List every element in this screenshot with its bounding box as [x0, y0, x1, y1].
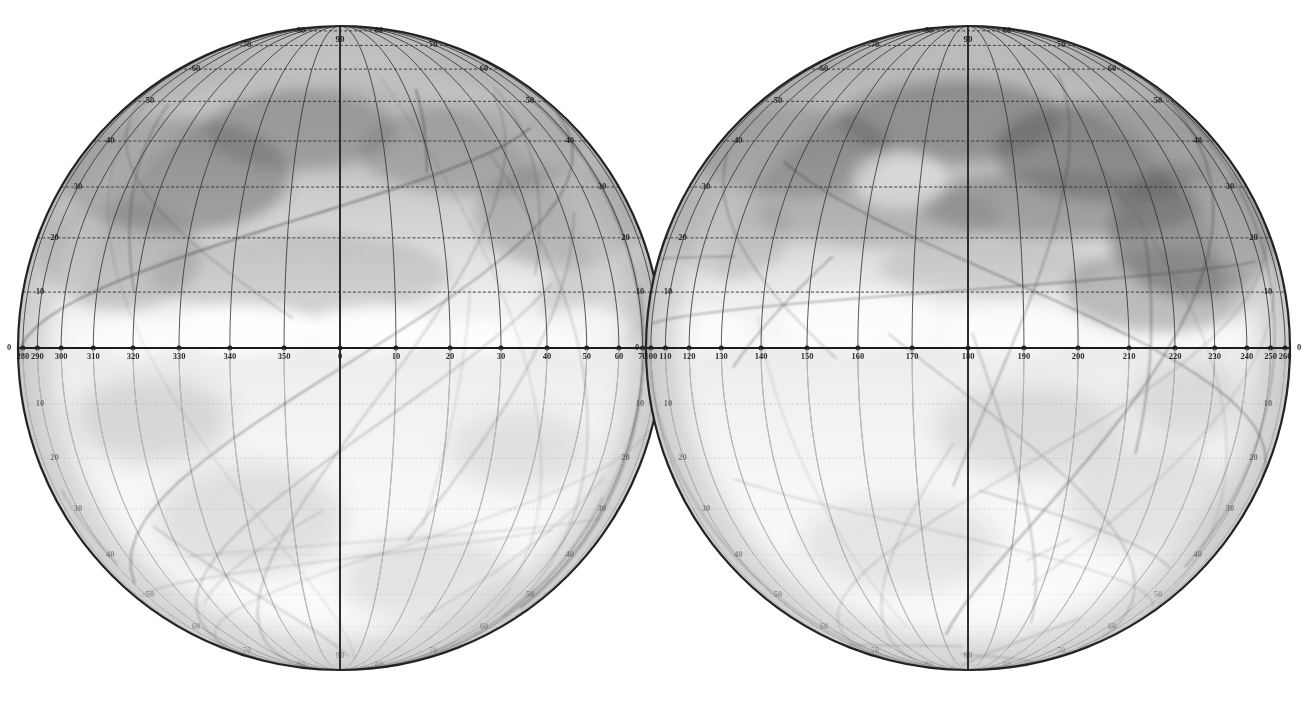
right-limb-latitude-label-n20: 20 [1249, 232, 1258, 242]
left-limb-latitude-label-s60: 60 [820, 621, 829, 631]
right-limb-latitude-label-n40: 40 [565, 135, 574, 145]
right-limb-latitude-label-s60: 60 [480, 621, 489, 631]
left-limb-latitude-label-s50: 50 [146, 589, 155, 599]
right-limb-latitude-label-n30: 30 [1226, 181, 1235, 191]
right-limb-latitude-label-n70: 70 [429, 39, 438, 49]
left-limb-latitude-label-n10: 10 [664, 286, 673, 296]
south-pole-label: 90 [964, 650, 974, 660]
equator-longitude-label-230: 230 [1208, 351, 1221, 361]
right-limb-latitude-label-n30: 30 [598, 181, 607, 191]
equator-longitude-label-200: 200 [1072, 351, 1085, 361]
left-limb-latitude-label-0: 0 [635, 342, 639, 352]
left-limb-latitude-label-s50: 50 [774, 589, 783, 599]
left-limb-latitude-label-n60: 60 [192, 63, 201, 73]
right-limb-latitude-label-s20: 20 [621, 452, 630, 462]
equator-longitude-label-240: 240 [1241, 351, 1254, 361]
equator-longitude-label-50: 50 [582, 351, 591, 361]
right-limb-latitude-label-s40: 40 [1193, 549, 1202, 559]
left-limb-latitude-label-s70: 70 [243, 645, 252, 655]
equator-longitude-label-170: 170 [906, 351, 919, 361]
right-limb-latitude-label-n50: 50 [1154, 95, 1163, 105]
equator-longitude-label-350: 350 [278, 351, 291, 361]
left-limb-latitude-label-n40: 40 [734, 135, 743, 145]
equator-longitude-label-20: 20 [446, 351, 455, 361]
left-limb-latitude-label-n30: 30 [702, 181, 711, 191]
equator-longitude-label-250: 250 [1264, 351, 1277, 361]
left-limb-latitude-label-s20: 20 [50, 452, 59, 462]
right-limb-latitude-label-s60: 60 [1108, 621, 1117, 631]
right-limb-latitude-label-s50: 50 [1154, 589, 1163, 599]
left-limb-latitude-label-n30: 30 [74, 181, 83, 191]
north-pole-label: 90 [336, 34, 346, 44]
equator-longitude-label-0: 0 [338, 351, 342, 361]
equator-longitude-label-140: 140 [755, 351, 768, 361]
north-pole-label: 90 [964, 34, 974, 44]
right-limb-latitude-label-n50: 50 [526, 95, 535, 105]
equator-longitude-label-300: 300 [55, 351, 68, 361]
left-limb-latitude-label-s20: 20 [678, 452, 687, 462]
right-limb-latitude-label-s80: 80 [375, 659, 384, 669]
left-limb-latitude-label-s40: 40 [734, 549, 743, 559]
right-limb-latitude-label-0: 0 [1297, 342, 1301, 352]
right-limb-latitude-label-s50: 50 [526, 589, 535, 599]
left-limb-latitude-label-n80: 80 [297, 25, 306, 35]
right-hemisphere-surface [646, 26, 1290, 670]
equator-longitude-label-180: 180 [962, 351, 975, 361]
equator-longitude-label-280: 280 [17, 351, 30, 361]
left-limb-latitude-label-n10: 10 [36, 286, 45, 296]
left-limb-latitude-label-s30: 30 [74, 503, 83, 513]
left-limb-latitude-label-s80: 80 [925, 659, 934, 669]
equator-longitude-label-260: 260 [1279, 351, 1292, 361]
right-limb-latitude-label-n80: 80 [375, 25, 384, 35]
left-limb-latitude-label-s40: 40 [106, 549, 115, 559]
right-limb-latitude-label-s10: 10 [1264, 398, 1273, 408]
left-limb-latitude-label-n70: 70 [871, 39, 880, 49]
equator-longitude-label-40: 40 [543, 351, 552, 361]
equator-longitude-label-220: 220 [1169, 351, 1182, 361]
mars-map-svg: 2802903003103203303403500102030405060708… [0, 0, 1306, 704]
right-limb-latitude-label-n60: 60 [480, 63, 489, 73]
left-limb-latitude-label-n80: 80 [925, 25, 934, 35]
equator-longitude-label-110: 110 [659, 351, 671, 361]
right-limb-latitude-label-n40: 40 [1193, 135, 1202, 145]
left-limb-latitude-label-0: 0 [7, 342, 11, 352]
equator-longitude-label-10: 10 [392, 351, 401, 361]
mars-map-figure: 2802903003103203303403500102030405060708… [0, 0, 1306, 704]
equator-longitude-label-130: 130 [715, 351, 728, 361]
right-limb-latitude-label-s40: 40 [565, 549, 574, 559]
right-limb-latitude-label-s10: 10 [636, 398, 645, 408]
equator-longitude-label-30: 30 [497, 351, 506, 361]
right-limb-latitude-label-s70: 70 [1057, 645, 1066, 655]
left-limb-latitude-label-s10: 10 [664, 398, 673, 408]
equator-longitude-label-210: 210 [1123, 351, 1136, 361]
equator-longitude-label-290: 290 [31, 351, 44, 361]
right-limb-latitude-label-s20: 20 [1249, 452, 1258, 462]
left-limb-latitude-label-n20: 20 [50, 232, 59, 242]
equator-longitude-label-160: 160 [852, 351, 865, 361]
left-limb-latitude-label-n50: 50 [774, 95, 783, 105]
left-limb-latitude-label-n20: 20 [678, 232, 687, 242]
left-limb-latitude-label-s80: 80 [297, 659, 306, 669]
right-limb-latitude-label-s80: 80 [1003, 659, 1012, 669]
equator-longitude-label-330: 330 [173, 351, 186, 361]
right-limb-latitude-label-n80: 80 [1003, 25, 1012, 35]
left-limb-latitude-label-n60: 60 [820, 63, 829, 73]
equator-longitude-label-320: 320 [127, 351, 140, 361]
equator-longitude-label-190: 190 [1018, 351, 1031, 361]
equator-longitude-label-100: 100 [645, 351, 658, 361]
equator-longitude-label-60: 60 [615, 351, 624, 361]
south-pole-label: 90 [336, 650, 346, 660]
equator-longitude-label-340: 340 [224, 351, 237, 361]
left-limb-latitude-label-s10: 10 [36, 398, 45, 408]
left-limb-latitude-label-n40: 40 [106, 135, 115, 145]
right-limb-latitude-label-s30: 30 [1226, 503, 1235, 513]
left-limb-latitude-label-s30: 30 [702, 503, 711, 513]
equator-longitude-label-310: 310 [87, 351, 100, 361]
equator-longitude-label-120: 120 [683, 351, 696, 361]
right-limb-latitude-label-n70: 70 [1057, 39, 1066, 49]
left-limb-latitude-label-s70: 70 [871, 645, 880, 655]
right-limb-latitude-label-s30: 30 [598, 503, 607, 513]
right-limb-latitude-label-s70: 70 [429, 645, 438, 655]
right-limb-latitude-label-n10: 10 [1264, 286, 1273, 296]
right-limb-latitude-label-n60: 60 [1108, 63, 1117, 73]
